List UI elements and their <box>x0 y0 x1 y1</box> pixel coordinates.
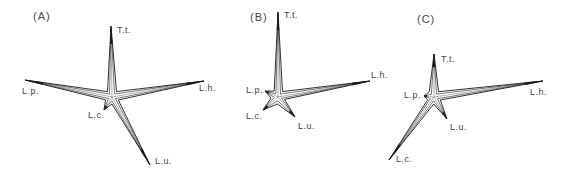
a-label-lu: L.u. <box>155 157 172 166</box>
star-b <box>263 12 370 117</box>
panel-label-b: (B) <box>250 12 268 23</box>
a-label-lh: L.h. <box>199 84 216 93</box>
a-label-tt: T.t. <box>117 26 131 35</box>
c-label-lp: L.p. <box>404 91 421 100</box>
panel-label-c: (C) <box>417 14 435 25</box>
c-label-lu: L.u. <box>450 123 467 132</box>
b-label-tt: T.t. <box>284 11 298 20</box>
b-label-lu: L.u. <box>298 122 315 131</box>
b-label-lh: L.h. <box>371 71 388 80</box>
a-label-lc: L.c. <box>88 111 105 120</box>
star-diagrams-svg <box>0 0 564 175</box>
diagram-figure: (A) (B) (C) T.t. L.h. L.u. L.c. L.p. T.t… <box>0 0 564 175</box>
b-label-lp: L.p. <box>246 86 263 95</box>
arm-tip <box>25 80 43 85</box>
c-label-lh: L.h. <box>530 88 547 97</box>
star-outline <box>389 54 543 160</box>
star-c <box>389 54 543 160</box>
star-outline <box>25 26 204 165</box>
a-label-lp: L.p. <box>22 87 39 96</box>
c-label-tt: T.t. <box>441 55 455 64</box>
star-inner-outline <box>26 27 202 164</box>
star-a <box>25 26 204 165</box>
star-inner-outline <box>390 55 542 160</box>
b-label-lc: L.c. <box>246 112 263 121</box>
arm-tip <box>140 149 150 165</box>
panel-label-a: (A) <box>33 11 51 22</box>
c-label-lc: L.c. <box>396 155 413 164</box>
arm-tip <box>442 112 447 119</box>
